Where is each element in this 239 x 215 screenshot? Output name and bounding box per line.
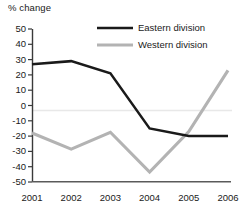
legend-label-western-division: Western division xyxy=(138,40,208,50)
y-axis-tick-marks xyxy=(28,29,32,182)
series-line-western-division xyxy=(32,70,228,172)
chart-container: % change 50403020100-10-20-30-40-50 2001… xyxy=(0,0,239,215)
series-line-eastern-division xyxy=(32,61,228,136)
legend-label-eastern-division: Eastern division xyxy=(138,23,205,33)
